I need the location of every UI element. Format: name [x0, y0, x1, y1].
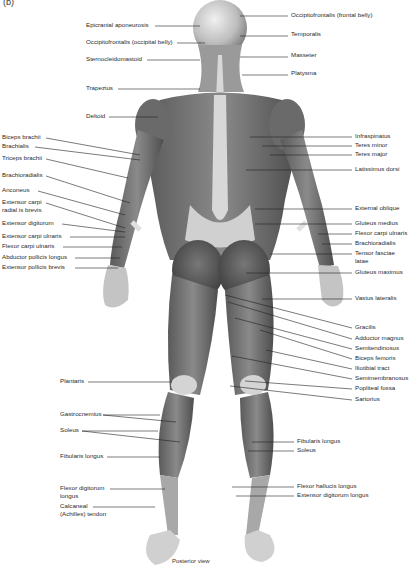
muscle-label: Extensor carpi ulnaris — [2, 232, 62, 239]
muscle-label: Trapezius — [86, 84, 113, 91]
muscle-label: Semimembranosus — [355, 374, 408, 381]
muscle-label: Gastrocnemius — [60, 410, 102, 417]
muscle-label: Gracilis — [355, 323, 376, 330]
muscle-label: Occipitofrontalis (frontal belly) — [291, 11, 373, 18]
muscle-label: radial is brevis — [2, 206, 42, 213]
muscle-label: Fibularis longus — [297, 437, 340, 444]
muscle-label: Latissimus dorsi — [355, 165, 399, 172]
muscle-label: Infraspinatus — [355, 132, 390, 139]
muscle-label: latae — [355, 257, 368, 264]
muscle-label: Semitendinosus — [355, 344, 399, 351]
muscle-label: Brachioradialis — [355, 239, 396, 246]
muscle-label: Brachialis — [2, 142, 29, 149]
muscle-label: Soleus — [60, 426, 79, 433]
muscle-label: Extensor carpi — [2, 198, 42, 205]
muscle-label: Biceps brachii — [2, 133, 41, 140]
muscle-label: Flexor carpi ulnaris — [2, 242, 54, 249]
muscle-label: Masseter — [291, 51, 316, 58]
muscle-label: External oblique — [355, 204, 399, 211]
muscle-label: Sternocleidomastoid — [86, 55, 142, 62]
muscle-label: Deltoid — [86, 112, 105, 119]
right-arm — [280, 130, 334, 268]
figure-caption: Posterior view — [172, 558, 210, 564]
muscle-label: Calcaneal — [60, 502, 88, 509]
muscle-label: Extensor pollicis brevis — [2, 263, 65, 270]
muscle-label: Extensor digitorum longus — [297, 491, 369, 498]
muscle-label: Iliotibial tract — [355, 364, 389, 371]
muscle-label: Teres major — [355, 150, 387, 157]
left-hand — [103, 265, 129, 308]
muscle-label: Brachioradialis — [2, 171, 43, 178]
muscle-label: Vastus lateralis — [355, 294, 397, 301]
muscle-label: Sartorius — [355, 395, 380, 402]
muscle-label: Tensor fasciae — [355, 249, 395, 256]
muscle-label: Platysma — [291, 69, 316, 76]
muscle-label: Temporalis — [291, 30, 321, 37]
left-thigh — [168, 275, 218, 395]
muscle-label: Epicranial aponeurosis — [86, 21, 149, 28]
muscle-label: Gluteus medius — [355, 219, 398, 226]
muscle-label: Extensor digitorum — [2, 219, 54, 226]
muscle-label: Triceps brachii — [2, 154, 42, 161]
muscle-label: Adductor magnus — [355, 334, 404, 341]
muscle-label: Fibularis longus — [60, 452, 103, 459]
panel-label: (b) — [3, 0, 14, 7]
muscle-label: Flexor digitorum — [60, 484, 104, 491]
muscle-label: Biceps femoris — [355, 354, 396, 361]
muscle-label: Flexor hallucis longus — [297, 482, 357, 489]
muscle-label: Plantaris — [60, 377, 84, 384]
muscle-label: Teres minor — [355, 141, 387, 148]
muscle-label: Anconeus — [2, 186, 30, 193]
muscle-label: Abductor pollicis longus — [2, 253, 67, 260]
right-calf — [240, 392, 274, 478]
muscle-label: (Achilles) tendon — [60, 510, 106, 517]
right-foot — [245, 530, 275, 562]
left-calf — [159, 392, 194, 478]
right-hand — [318, 265, 343, 307]
muscle-label: Gluteus maximus — [355, 268, 403, 275]
muscle-label: Popliteal fossa — [355, 384, 395, 391]
muscle-label: Soleus — [297, 446, 316, 453]
muscle-label: Occipitofrontalis (occipital belly) — [86, 38, 173, 45]
muscle-label: Flexor carpi ulnaris — [355, 229, 407, 236]
muscle-label: longus — [60, 492, 78, 499]
